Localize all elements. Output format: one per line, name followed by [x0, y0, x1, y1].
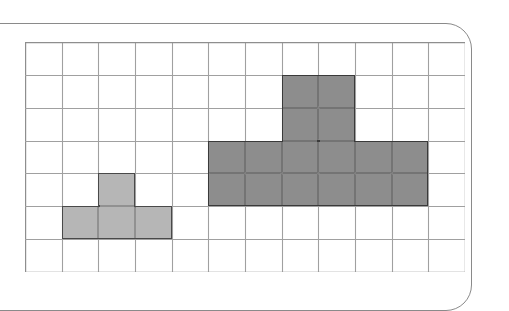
- grid-line-layer: [25, 42, 465, 272]
- square-grid: [25, 42, 465, 272]
